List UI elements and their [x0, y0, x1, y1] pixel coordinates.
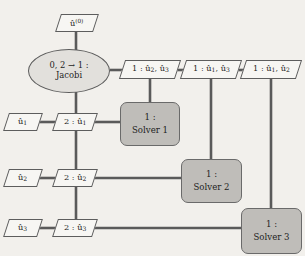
superscript-0: (0) — [76, 18, 84, 24]
node-spine-data-3-var: û3 — [77, 222, 86, 232]
node-solver-2[interactable]: 1 : Solver 2 — [181, 159, 242, 203]
node-jacobi[interactable]: 0, 2 → 1 : Jacobi — [28, 49, 110, 93]
node-spine-data-3-label: 2 : û3 — [64, 223, 86, 233]
node-spine-data-1-prefix: 2 : — [64, 116, 75, 126]
node-top-data-1[interactable]: 1 : û2, û3 — [119, 60, 181, 79]
node-solver-3-line1: 1 : — [266, 220, 277, 230]
node-spine-data-3[interactable]: 2 : û3 — [52, 219, 98, 237]
node-top-data-3-prefix: 1 : — [253, 63, 264, 73]
node-input-u2[interactable]: û2 — [3, 169, 43, 187]
node-spine-data-1-label: 2 : û1 — [64, 117, 86, 127]
node-jacobi-line2: Jacobi — [56, 71, 82, 81]
node-spine-data-2-label: 2 : û2 — [64, 173, 86, 183]
node-top-data-1-label: 1 : û2, û3 — [132, 64, 169, 74]
node-solver-3[interactable]: 1 : Solver 3 — [241, 208, 302, 254]
node-top-data-3[interactable]: 1 : û1, û2 — [240, 60, 302, 79]
node-initial-condition[interactable]: û(0) — [55, 14, 99, 32]
node-input-u1-label: û1 — [18, 117, 27, 127]
node-initial-condition-label: û(0) — [70, 18, 83, 28]
node-input-u1[interactable]: û1 — [3, 113, 43, 131]
node-top-data-2-label: 1 : û1, û3 — [193, 64, 230, 74]
node-spine-data-1-var: û1 — [77, 116, 86, 126]
node-top-data-1-prefix: 1 : — [132, 63, 143, 73]
node-solver-2-line1: 1 : — [206, 170, 217, 180]
node-spine-data-2-var: û2 — [77, 172, 86, 182]
node-spine-data-2-prefix: 2 : — [64, 172, 75, 182]
node-solver-1[interactable]: 1 : Solver 1 — [120, 102, 180, 146]
node-spine-data-3-prefix: 2 : — [64, 222, 75, 232]
node-solver-3-line2: Solver 3 — [253, 233, 289, 243]
u-hat-glyph: û — [70, 19, 75, 28]
node-spine-data-1[interactable]: 2 : û1 — [52, 113, 98, 131]
node-top-data-2-vars: û1, û3 — [206, 63, 229, 73]
node-solver-2-line2: Solver 2 — [193, 183, 229, 193]
node-top-data-3-label: 1 : û1, û2 — [253, 64, 290, 74]
node-top-data-3-vars: û1, û2 — [266, 63, 289, 73]
node-spine-data-2[interactable]: 2 : û2 — [52, 169, 98, 187]
node-input-u3-label: û3 — [18, 223, 27, 233]
node-input-u2-label: û2 — [18, 173, 27, 183]
diagram-canvas: û(0) 0, 2 → 1 : Jacobi 1 : û2, û3 1 : û1… — [0, 0, 305, 256]
node-solver-1-line2: Solver 1 — [132, 126, 168, 136]
node-top-data-2[interactable]: 1 : û1, û3 — [180, 60, 242, 79]
node-top-data-1-vars: û2, û3 — [145, 63, 168, 73]
node-top-data-2-prefix: 1 : — [193, 63, 204, 73]
node-solver-1-line1: 1 : — [144, 113, 155, 123]
node-input-u3[interactable]: û3 — [3, 219, 43, 237]
